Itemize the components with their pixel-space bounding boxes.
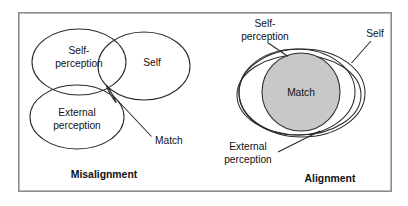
alignment-self-label: Self — [366, 28, 384, 39]
venn-diagram-figure: Self- perception Self External perceptio… — [0, 0, 408, 206]
misalignment-self-perception-label-line2: perception — [55, 58, 103, 69]
alignment-self-perception-label-line1: Self- — [255, 18, 276, 29]
misalignment-self-label: Self — [143, 57, 161, 68]
misalignment-match-label: Match — [155, 135, 183, 146]
misalignment-self-perception-label-line1: Self- — [69, 45, 90, 56]
misalignment-external-perception-label-line2: perception — [53, 120, 101, 131]
misalignment-panel-caption: Misalignment — [71, 169, 138, 180]
alignment-external-perception-label-line1: External — [229, 141, 266, 152]
alignment-self-perception-label-line2: perception — [241, 31, 289, 42]
alignment-match-label: Match — [287, 87, 315, 98]
figure-root: Self- perception Self External perceptio… — [0, 0, 408, 206]
alignment-external-perception-label-line2: perception — [224, 154, 272, 165]
alignment-panel-caption: Alignment — [305, 173, 356, 184]
misalignment-external-perception-label-line1: External — [58, 107, 95, 118]
